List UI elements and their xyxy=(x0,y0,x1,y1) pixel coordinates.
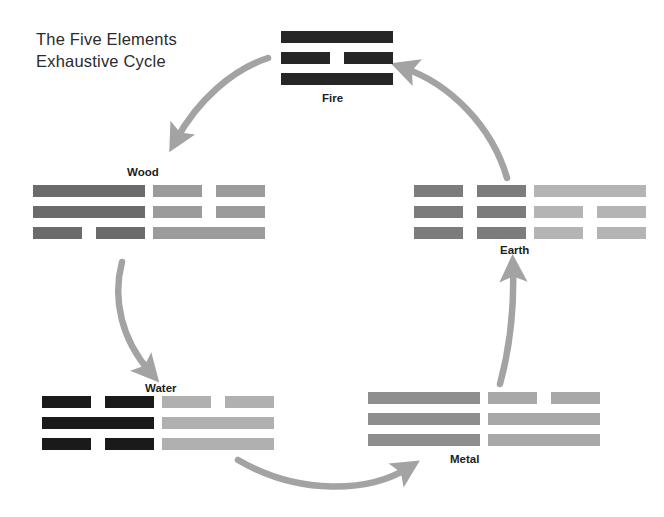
trigram-line-solid xyxy=(368,413,480,425)
solid-segment xyxy=(368,392,480,404)
broken-segment-right xyxy=(477,206,526,218)
trigram-line-solid xyxy=(162,438,274,450)
trigram-earth-2 xyxy=(534,185,646,239)
broken-segment-left xyxy=(42,396,91,408)
solid-segment xyxy=(42,417,154,429)
trigram-line-broken xyxy=(488,392,600,404)
broken-segment-gap xyxy=(91,396,105,408)
element-node-fire xyxy=(281,31,393,85)
element-label-fire: Fire xyxy=(322,92,343,104)
broken-segment-right xyxy=(105,438,154,450)
trigram-water-1 xyxy=(42,396,154,450)
broken-segment-gap xyxy=(463,185,477,197)
broken-segment-right xyxy=(477,227,526,239)
trigram-line-solid xyxy=(534,185,646,197)
trigram-line-broken xyxy=(153,206,265,218)
broken-segment-gap xyxy=(211,396,225,408)
trigram-line-broken xyxy=(534,206,646,218)
trigram-line-solid xyxy=(488,434,600,446)
broken-segment-left xyxy=(534,227,583,239)
solid-segment xyxy=(162,438,274,450)
trigram-line-solid xyxy=(33,206,145,218)
solid-segment xyxy=(153,227,265,239)
solid-segment xyxy=(368,434,480,446)
solid-segment xyxy=(281,73,393,85)
broken-segment-left xyxy=(42,438,91,450)
element-label-earth: Earth xyxy=(500,244,529,256)
solid-segment xyxy=(488,413,600,425)
broken-segment-left xyxy=(153,206,202,218)
trigram-line-solid xyxy=(281,73,393,85)
trigram-metal-2 xyxy=(488,392,600,446)
broken-segment-right xyxy=(344,52,393,64)
trigram-earth-1 xyxy=(414,185,526,239)
trigram-line-broken xyxy=(414,185,526,197)
trigram-wood-2 xyxy=(153,185,265,239)
broken-segment-left xyxy=(534,206,583,218)
broken-segment-right xyxy=(216,185,265,197)
broken-segment-left xyxy=(414,206,463,218)
trigram-line-solid xyxy=(488,413,600,425)
broken-segment-right xyxy=(225,396,274,408)
element-node-metal xyxy=(368,392,600,446)
trigram-line-broken xyxy=(42,438,154,450)
broken-segment-right xyxy=(96,227,145,239)
trigram-line-solid xyxy=(153,227,265,239)
solid-segment xyxy=(33,185,145,197)
element-label-metal: Metal xyxy=(450,453,479,465)
trigram-line-broken xyxy=(33,227,145,239)
trigram-line-broken xyxy=(281,52,393,64)
broken-segment-right xyxy=(551,392,600,404)
trigram-line-solid xyxy=(368,434,480,446)
trigram-line-solid xyxy=(281,31,393,43)
solid-segment xyxy=(368,413,480,425)
broken-segment-gap xyxy=(91,438,105,450)
solid-segment xyxy=(534,185,646,197)
broken-segment-gap xyxy=(583,227,597,239)
broken-segment-left xyxy=(33,227,82,239)
trigram-line-solid xyxy=(368,392,480,404)
element-label-water: Water xyxy=(145,382,177,394)
trigram-line-solid xyxy=(162,417,274,429)
trigram-metal-1 xyxy=(368,392,480,446)
broken-segment-left xyxy=(162,396,211,408)
element-node-wood xyxy=(33,185,265,239)
trigram-line-broken xyxy=(42,396,154,408)
broken-segment-gap xyxy=(583,206,597,218)
broken-segment-left xyxy=(488,392,537,404)
trigram-line-broken xyxy=(414,206,526,218)
broken-segment-gap xyxy=(202,185,216,197)
broken-segment-right xyxy=(597,227,646,239)
trigram-fire-1 xyxy=(281,31,393,85)
broken-segment-gap xyxy=(330,52,344,64)
broken-segment-gap xyxy=(537,392,551,404)
arrow-wood-to-water xyxy=(118,262,150,372)
arrow-earth-to-fire xyxy=(404,68,507,178)
broken-segment-left xyxy=(414,185,463,197)
arrow-water-to-metal xyxy=(238,460,408,487)
trigram-line-broken xyxy=(414,227,526,239)
trigram-line-solid xyxy=(42,417,154,429)
arrow-fire-to-wood xyxy=(176,58,268,140)
broken-segment-left xyxy=(414,227,463,239)
broken-segment-right xyxy=(105,396,154,408)
five-elements-diagram: The Five Elements Exhaustive Cycle Fire xyxy=(0,0,664,517)
element-node-water xyxy=(42,396,274,450)
solid-segment xyxy=(33,206,145,218)
broken-segment-right xyxy=(216,206,265,218)
trigram-water-2 xyxy=(162,396,274,450)
broken-segment-right xyxy=(597,206,646,218)
broken-segment-left xyxy=(153,185,202,197)
broken-segment-gap xyxy=(202,206,216,218)
solid-segment xyxy=(281,31,393,43)
solid-segment xyxy=(162,417,274,429)
arrow-metal-to-earth xyxy=(500,268,513,384)
page-title: The Five Elements Exhaustive Cycle xyxy=(36,28,177,72)
broken-segment-gap xyxy=(82,227,96,239)
trigram-line-broken xyxy=(153,185,265,197)
trigram-line-broken xyxy=(534,227,646,239)
trigram-line-broken xyxy=(162,396,274,408)
element-label-wood: Wood xyxy=(127,166,159,178)
element-node-earth xyxy=(414,185,646,239)
broken-segment-right xyxy=(477,185,526,197)
